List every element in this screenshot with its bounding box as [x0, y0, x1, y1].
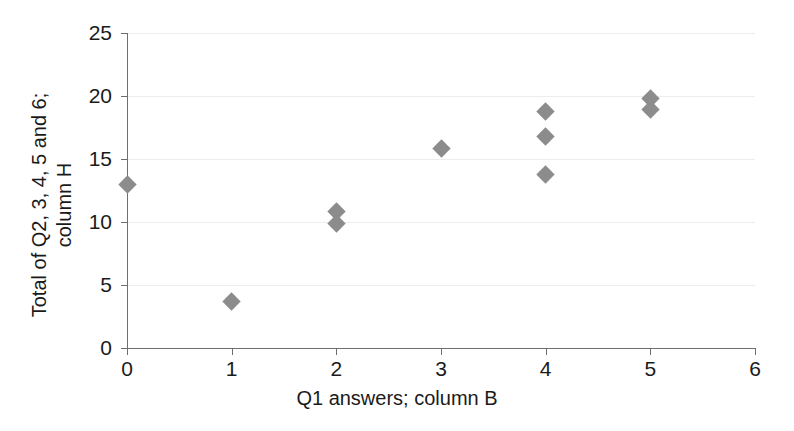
data-point-marker	[432, 140, 450, 158]
data-point-marker	[118, 175, 136, 193]
x-axis-tick	[755, 349, 756, 355]
x-axis-tick	[546, 349, 547, 355]
x-axis-label: Q1 answers; column B	[0, 386, 794, 410]
x-axis-tick-label: 0	[107, 358, 147, 379]
y-axis-tick-label: 25	[72, 22, 112, 43]
x-axis-tick-label: 3	[421, 358, 461, 379]
x-axis-tick-label: 1	[212, 358, 252, 379]
data-point-marker	[327, 214, 345, 232]
data-point-marker	[222, 292, 240, 310]
y-axis-label: Total of Q2, 3, 4, 5 and 6; column H	[27, 35, 77, 375]
data-point-marker	[536, 102, 554, 120]
y-axis-tick-label: 5	[72, 274, 112, 295]
x-axis-tick-label: 4	[526, 358, 566, 379]
y-axis-label-line1: Total of Q2, 3, 4, 5 and 6;	[28, 93, 50, 318]
y-axis-tick-label: 10	[72, 211, 112, 232]
x-axis-tick-label: 6	[735, 358, 775, 379]
x-axis-tick	[650, 349, 651, 355]
x-axis-tick	[336, 349, 337, 355]
y-axis-tick-label: 20	[72, 85, 112, 106]
x-axis-tick	[441, 349, 442, 355]
x-axis-tick	[127, 349, 128, 355]
plot-area	[127, 33, 755, 348]
y-axis-tick-label: 0	[72, 337, 112, 358]
data-point-marker	[536, 127, 554, 145]
data-point-marker	[641, 101, 659, 119]
y-axis-tick-label: 15	[72, 148, 112, 169]
data-point-marker	[536, 165, 554, 183]
y-axis-label-line2: column H	[52, 35, 77, 375]
x-axis-tick	[232, 349, 233, 355]
x-axis-tick-label: 2	[316, 358, 356, 379]
x-axis-tick-label: 5	[630, 358, 670, 379]
scatter-chart: 0510152025 0123456 Q1 answers; column B …	[0, 0, 794, 431]
